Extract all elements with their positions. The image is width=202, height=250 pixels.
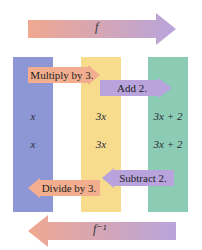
f-label: f <box>95 20 98 35</box>
add-step-label: Add 2. <box>100 78 164 98</box>
cell-3x2-2: 3x + 2 <box>138 138 198 150</box>
f-inverse-label: f⁻¹ <box>93 222 106 237</box>
cell-3x2-1: 3x + 2 <box>138 110 198 122</box>
subtract-step-label: Subtract 2. <box>112 168 174 188</box>
multiply-step-label: Multiply by 3. <box>28 65 96 85</box>
cell-3x-1: 3x <box>71 110 131 122</box>
cell-3x-2: 3x <box>71 138 131 150</box>
cell-x-1: x <box>3 110 63 122</box>
f-arrow-icon <box>28 13 176 45</box>
divide-step-label: Divide by 3. <box>38 178 100 198</box>
cell-x-2: x <box>3 138 63 150</box>
